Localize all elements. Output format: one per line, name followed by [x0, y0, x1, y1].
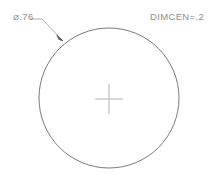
cad-drawing-canvas: ⌀.76 DIMCEN=.2: [0, 0, 216, 182]
diameter-dimension-label: ⌀.76: [13, 12, 34, 22]
cad-geometry-svg: [0, 0, 216, 182]
dimcen-variable-label: DIMCEN=.2: [150, 12, 204, 22]
leader-arrowhead-icon: [57, 35, 63, 41]
